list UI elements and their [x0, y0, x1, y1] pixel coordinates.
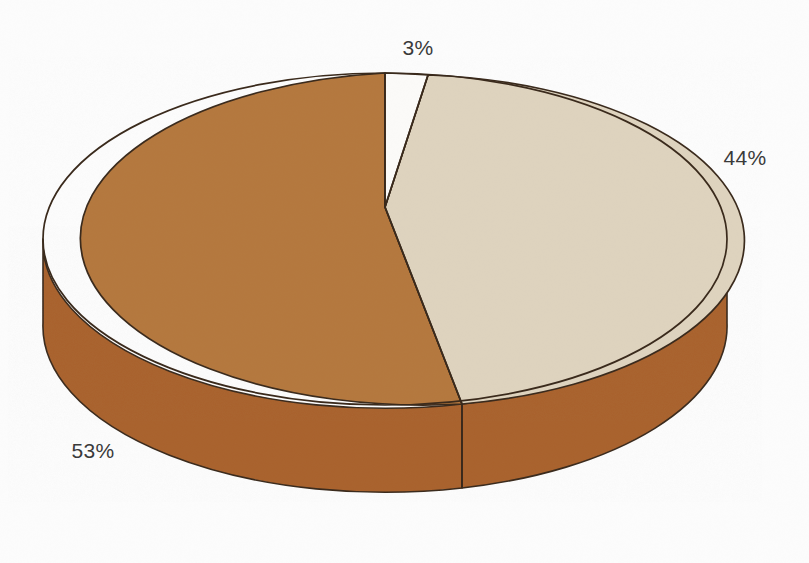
slice-label-53-percent: 53% — [71, 439, 114, 462]
pie-chart-figure: 3% 44% 53% — [0, 0, 809, 563]
pie-chart-svg: 3% 44% 53% — [0, 0, 809, 563]
slice-label-44-percent: 44% — [723, 146, 766, 169]
pie-top-surface — [43, 73, 744, 405]
slice-label-3-percent: 3% — [402, 36, 433, 59]
